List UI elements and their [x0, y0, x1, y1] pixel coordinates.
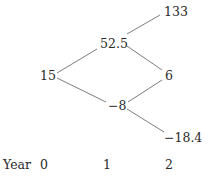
edge-up-updown [127, 46, 162, 70]
axis-year-label: Year [3, 158, 31, 172]
edge-root-up [57, 49, 97, 73]
node-year2-up-up: 133 [164, 5, 188, 19]
tree-edges [0, 0, 208, 180]
node-year2-down-down: −18.4 [164, 131, 202, 145]
axis-tick-2: 2 [165, 158, 173, 172]
node-year2-up-down: 6 [165, 69, 173, 83]
edge-up-upup [127, 15, 160, 34]
axis-tick-0: 0 [40, 158, 48, 172]
node-year0-root: 15 [40, 69, 56, 83]
edge-root-down [57, 78, 106, 102]
edge-down-downdown [127, 109, 164, 132]
node-year1-up: 52.5 [100, 37, 128, 51]
node-year1-down: −8 [108, 99, 126, 113]
axis-tick-1: 1 [103, 158, 111, 172]
edge-down-updown [128, 80, 162, 102]
